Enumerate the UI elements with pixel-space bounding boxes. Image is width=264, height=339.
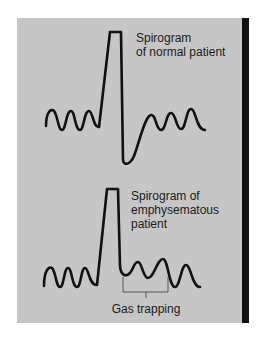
emphysema-label-line-3: patient — [131, 217, 168, 231]
emphysema-label-line-1: Spirogram of — [131, 189, 200, 203]
emphysema-label-line-2: emphysematous — [131, 203, 219, 217]
gas-trapping-bracket — [123, 277, 168, 298]
normal-label-line-2: of normal patient — [136, 45, 226, 59]
spirogram-diagram: Spirogram of normal patient Spirogram of… — [0, 0, 264, 339]
gas-trapping-label: Gas trapping — [112, 302, 181, 316]
normal-label-line-1: Spirogram — [136, 31, 191, 45]
